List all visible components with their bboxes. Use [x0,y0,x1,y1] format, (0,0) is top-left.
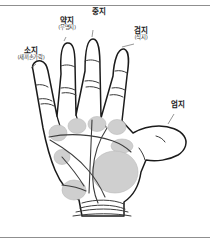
pad-index-mount [108,120,126,135]
label-thumb-main: 엄지 [158,101,198,109]
label-index-finger-sub: (식지) [120,35,162,41]
pad-ring-mount [68,119,86,134]
pad-little-mount [49,125,67,141]
leader-ring [64,37,66,41]
label-middle-finger: 중지 [79,8,119,16]
leader-middle [92,30,93,37]
pad-thenar-large [92,151,138,193]
pad-middle-mount [88,117,106,132]
label-ring-finger-sub: (무명지) [44,25,90,31]
label-middle-finger-main: 중지 [79,8,119,16]
label-little-finger: 소지 (새끼손가락) [8,47,54,61]
diagram-page: 소지 (새끼손가락) 약지 (무명지) 중지 검지 (식지) 엄지 [0,0,210,245]
label-little-finger-sub: (새끼손가락) [8,55,54,61]
hand-palm-illustration [0,0,210,245]
label-thumb: 엄지 [158,101,198,109]
label-index-finger: 검지 (식지) [120,27,162,41]
label-ring-finger: 약지 (무명지) [44,17,90,31]
leader-thumb [168,114,174,124]
leader-index [122,44,134,47]
